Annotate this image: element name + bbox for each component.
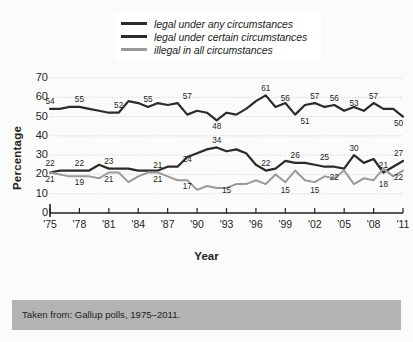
y-tick-label: 10 — [20, 187, 48, 199]
svg-text:51: 51 — [300, 117, 310, 126]
svg-text:57: 57 — [310, 92, 320, 101]
x-tick-label: '87 — [153, 218, 183, 230]
legend-item-legal-certain: legal under certain circumstances — [121, 30, 315, 43]
svg-text:22: 22 — [261, 159, 271, 168]
svg-text:30: 30 — [349, 144, 359, 153]
x-tick-label: '93 — [212, 218, 242, 230]
x-tick-label: '02 — [300, 218, 330, 230]
plot-area: Percentage Year 222223212434222625302127… — [0, 60, 413, 275]
y-tick-label: 30 — [20, 148, 48, 160]
svg-text:24: 24 — [183, 155, 193, 164]
y-tick-label: 60 — [20, 90, 48, 102]
svg-text:19: 19 — [75, 178, 85, 187]
x-tick-label: '78 — [64, 218, 94, 230]
svg-text:15: 15 — [310, 186, 320, 195]
svg-text:22: 22 — [75, 159, 85, 168]
svg-text:56: 56 — [330, 94, 340, 103]
legend-label-illegal-all: illegal in all circumstances — [154, 44, 273, 56]
svg-text:21: 21 — [153, 161, 163, 170]
data-series — [50, 95, 403, 190]
legend-swatch-legal-certain — [121, 35, 147, 38]
y-tick-label: 70 — [20, 71, 48, 83]
svg-text:27: 27 — [394, 149, 404, 158]
x-tick-label: '90 — [182, 218, 212, 230]
y-tick-label: 50 — [20, 110, 48, 122]
svg-text:21: 21 — [379, 161, 389, 170]
caption-text: Taken from: Gallup polls, 1975–2011. — [22, 309, 180, 320]
y-tick-label: 40 — [20, 129, 48, 141]
x-tick-label: '99 — [270, 218, 300, 230]
svg-text:18: 18 — [379, 180, 389, 189]
svg-text:52: 52 — [114, 101, 124, 110]
svg-text:26: 26 — [291, 151, 301, 160]
legend-swatch-legal-any — [121, 22, 147, 25]
svg-text:48: 48 — [212, 122, 222, 131]
svg-text:25: 25 — [320, 153, 330, 162]
svg-text:21: 21 — [104, 175, 114, 184]
svg-text:34: 34 — [212, 136, 222, 145]
x-tick-label: '08 — [359, 218, 389, 230]
x-tick-label: '96 — [241, 218, 271, 230]
y-tick-label: 20 — [20, 167, 48, 179]
svg-text:56: 56 — [281, 94, 291, 103]
legend-label-legal-certain: legal under certain circumstances — [154, 31, 307, 43]
svg-text:15: 15 — [222, 186, 232, 195]
legend-item-legal-any: legal under any circumstances — [121, 17, 315, 30]
svg-text:15: 15 — [281, 186, 291, 195]
x-tick-label: '05 — [329, 218, 359, 230]
legend-item-illegal-all: illegal in all circumstances — [121, 43, 315, 56]
x-tick-label: '81 — [94, 218, 124, 230]
x-tick-label: '75 — [35, 218, 65, 230]
svg-text:55: 55 — [75, 95, 85, 104]
chart-figure: legal under any circumstances legal unde… — [0, 0, 413, 342]
legend-swatch-illegal-all — [121, 48, 147, 51]
svg-text:22: 22 — [394, 173, 404, 182]
svg-text:50: 50 — [394, 119, 404, 128]
svg-text:21: 21 — [153, 175, 163, 184]
svg-text:23: 23 — [104, 157, 114, 166]
x-tick-label: '11 — [388, 218, 413, 230]
y-tick-label: 0 — [20, 206, 48, 218]
svg-text:57: 57 — [369, 92, 379, 101]
svg-text:53: 53 — [349, 99, 359, 108]
chart-canvas: 2222232124342226253021275455525557486156… — [0, 60, 413, 275]
legend-label-legal-any: legal under any circumstances — [154, 18, 293, 30]
svg-text:57: 57 — [183, 92, 193, 101]
svg-text:61: 61 — [261, 84, 271, 93]
chart-legend: legal under any circumstances legal unde… — [115, 12, 321, 61]
x-tick-label: '84 — [123, 218, 153, 230]
svg-text:22: 22 — [330, 173, 340, 182]
svg-text:55: 55 — [144, 95, 154, 104]
svg-text:17: 17 — [183, 182, 193, 191]
